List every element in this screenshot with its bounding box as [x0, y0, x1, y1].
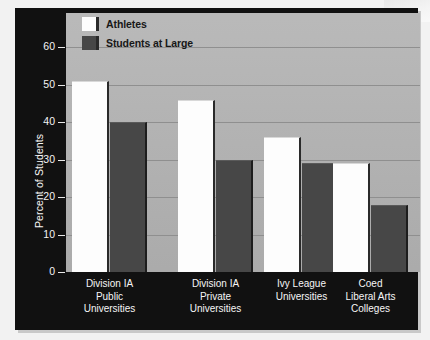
legend-swatch-students-icon — [82, 36, 99, 50]
y-tick-label-10: 10 — [25, 228, 55, 240]
x-category-label-2: Division IAPrivateUniversities — [168, 278, 264, 316]
chart-figure: 6050403020100 Percent of Students 51%40%… — [0, 0, 430, 340]
bar-athletes-group-4 — [333, 163, 370, 272]
bar-students-at-large-group-2 — [216, 160, 253, 273]
x-category-line: Liberal Arts — [323, 291, 419, 304]
y-tick-mark-60 — [58, 47, 65, 48]
y-tick-label-60: 60 — [25, 40, 55, 52]
gridline-50 — [66, 85, 420, 86]
y-tick-mark-10 — [58, 235, 65, 236]
x-category-line: Private — [168, 291, 264, 304]
legend-swatch-athletes-icon — [82, 17, 99, 31]
x-category-label-4: CoedLiberal ArtsColleges — [323, 278, 419, 316]
x-category-line: Universities — [168, 303, 264, 316]
y-axis-title: Percent of Students — [33, 134, 45, 228]
y-tick-mark-30 — [58, 160, 65, 161]
x-category-line: Coed — [323, 278, 419, 291]
bar-students-at-large-group-4 — [371, 205, 408, 273]
bar-athletes-group-1 — [72, 81, 109, 272]
bar-students-at-large-group-1 — [110, 122, 147, 272]
x-category-line: Public — [62, 291, 158, 304]
x-category-line: Division IA — [168, 278, 264, 291]
x-category-line: Division IA — [62, 278, 158, 291]
legend-label-athletes: Athletes — [106, 18, 147, 30]
bar-athletes-group-3 — [264, 137, 301, 272]
y-tick-mark-50 — [58, 85, 65, 86]
x-category-line: Colleges — [323, 303, 419, 316]
y-tick-mark-0 — [58, 272, 65, 273]
y-tick-label-0: 0 — [25, 265, 55, 277]
y-tick-mark-40 — [58, 122, 65, 123]
x-category-line: Universities — [62, 303, 158, 316]
y-tick-label-40: 40 — [25, 115, 55, 127]
legend-item-athletes: Athletes — [82, 16, 193, 32]
y-tick-label-50: 50 — [25, 78, 55, 90]
chart-legend: Athletes Students at Large — [82, 16, 193, 54]
bar-athletes-group-2 — [178, 100, 215, 273]
legend-item-students-at-large: Students at Large — [82, 35, 193, 51]
y-tick-mark-20 — [58, 197, 65, 198]
legend-label-students-at-large: Students at Large — [106, 37, 193, 49]
x-category-label-1: Division IAPublicUniversities — [62, 278, 158, 316]
